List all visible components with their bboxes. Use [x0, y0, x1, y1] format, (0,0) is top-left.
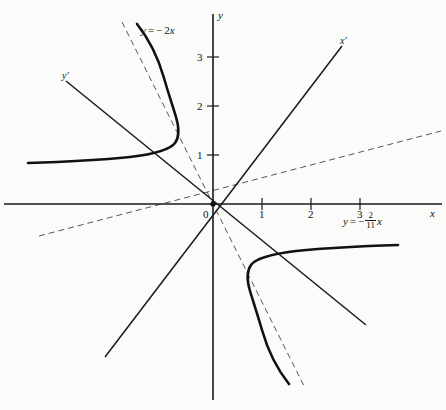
x-prime-axis-line	[105, 46, 342, 357]
origin-tick-label: 0	[203, 209, 209, 220]
x-tick-label-2: 2	[308, 209, 314, 220]
y-tick-label-1: 1	[197, 150, 203, 161]
asymptote-label-neg2over11x-variable: x	[377, 215, 382, 227]
asymptote-label-neg2x-variable: x	[170, 24, 175, 36]
y-axis-label: y	[218, 10, 223, 21]
asymptote-label-neg2x: y=−2x	[141, 25, 175, 36]
asymptote-label-neg2x-equals: =	[148, 24, 154, 36]
x-prime-axis-label-mark: ′	[344, 35, 346, 46]
asymptote-label-neg2over11x-minus: −	[358, 215, 364, 227]
hyperbola-branch-lower-right	[248, 245, 399, 384]
asymptote-label-neg2over11x-equals: =	[350, 215, 356, 227]
x-tick-label-1: 1	[259, 209, 265, 220]
figure-canvas	[0, 0, 446, 410]
y-tick-label-3: 3	[197, 52, 203, 63]
hyperbola-figure: y x x′ y′ 0 1 2 3 1 2 3 y=−2x y=−211x	[0, 0, 446, 410]
y-tick-label-2: 2	[197, 101, 203, 112]
fraction-denominator: 11	[365, 221, 376, 230]
asymptote-label-neg2over11x: y=−211x	[343, 211, 382, 231]
hyperbola-branch-upper-left	[28, 24, 179, 163]
asymptote-label-neg2over11x-lhs: y	[343, 215, 348, 227]
asymptote-label-neg2x-lhs: y	[141, 24, 146, 36]
origin-point	[210, 201, 215, 206]
x-axis-label: x	[430, 208, 435, 219]
x-prime-axis-label: x′	[340, 36, 347, 46]
asymptote-label-neg2over11x-fraction: 211	[365, 211, 376, 231]
y-prime-axis-label-mark: ′	[66, 70, 68, 81]
asymptote-label-neg2x-minus: −	[156, 24, 162, 36]
y-prime-axis-line	[66, 81, 366, 325]
y-prime-axis-label: y′	[62, 71, 69, 81]
